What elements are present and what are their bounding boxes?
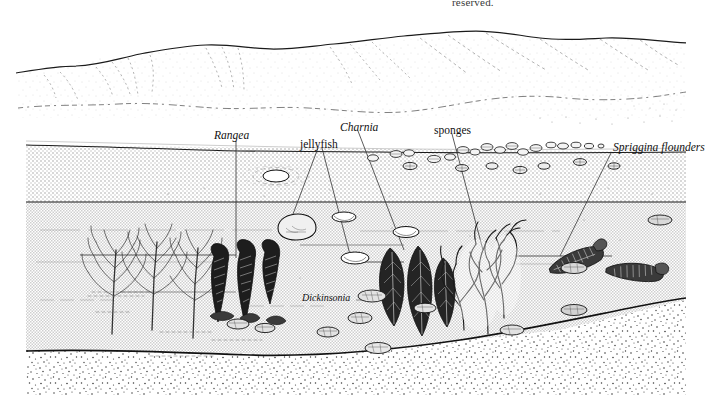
dickinsonia-disc [358,290,386,302]
label-sponges: sponges [434,125,471,137]
dickinsonia-disc [227,319,249,329]
dickinsonia-disc [561,263,587,274]
label-dickinsonia: Dickinsonia [302,293,350,303]
dickinsonia-disc [365,343,391,354]
dickinsonia-disc [648,215,672,225]
dickinsonia-disc [341,252,369,264]
dickinsonia-disc [500,325,524,335]
label-jellyfish: jellyfish [300,139,338,151]
label-spriggina: Spriggina flounders [613,142,705,154]
dickinsonia-disc [348,313,372,324]
dickinsonia-disc [561,305,587,316]
mountain-range [16,31,686,125]
upper-water-layer [26,141,686,203]
jellyfish-lower [278,214,316,240]
dickinsonia-disc [332,212,356,222]
label-rangea: Rangea [214,130,249,142]
dickinsonia-disc [393,227,419,238]
dickinsonia-disc [317,327,339,337]
dickinsonia-disc [255,323,275,332]
dickinsonia-disc [414,303,436,313]
label-charnia: Charnia [340,122,378,134]
